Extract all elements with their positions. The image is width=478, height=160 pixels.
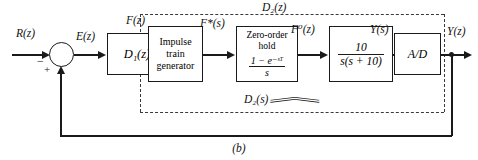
arrowhead-error xyxy=(98,51,106,59)
label-controller-output: F(z) xyxy=(126,14,145,26)
inner-group-brace: ︽ xyxy=(268,86,322,105)
block-impulse-train-generator: Impulse train generator xyxy=(148,26,203,82)
zoh-line-1: Zero-order xyxy=(246,30,287,41)
zoh-transfer-function: 1 − e⁻ˢᵀ s xyxy=(249,55,285,78)
plant-transfer-function: 10 s(s + 10) xyxy=(338,41,384,68)
inner-group-label: D₂(s) xyxy=(244,93,268,105)
wire-feedback-bottom xyxy=(60,135,452,137)
figure-caption: (b) xyxy=(0,142,478,154)
block-ad-converter: A/D xyxy=(394,33,441,75)
impulse-line-1: Impulse xyxy=(159,36,191,48)
arrowhead-impulse-out xyxy=(227,51,235,59)
dashed-box-bottom xyxy=(140,112,444,113)
dashed-box-top xyxy=(140,14,444,15)
block-controller-label: D₁(z) xyxy=(124,47,151,62)
sum-plus-sign: + xyxy=(44,64,50,76)
sum-minus-sign: − xyxy=(37,55,44,68)
arrowhead-feedback-into-sum xyxy=(57,66,65,74)
label-hold-output: F⁰(z) xyxy=(291,23,315,35)
arrowhead-output xyxy=(464,51,472,59)
outer-group-label: D₂(z) xyxy=(262,1,286,13)
label-error-signal: E(z) xyxy=(76,30,95,42)
arrowhead-hold-out xyxy=(320,51,328,59)
label-plant-output: Y(s) xyxy=(370,23,389,35)
figure-block-diagram: D₂(z) R(z) + − E(z) D₁(z) F(z) Impulse t… xyxy=(0,0,478,160)
zoh-numerator: 1 − e⁻ˢᵀ xyxy=(249,55,285,66)
block-ad-label: A/D xyxy=(408,47,427,62)
impulse-line-3: generator xyxy=(157,60,195,72)
plant-numerator: 10 xyxy=(338,41,384,54)
impulse-line-2: train xyxy=(166,48,184,60)
plant-denominator: s(s + 10) xyxy=(338,54,384,68)
dashed-box-right xyxy=(444,14,445,112)
label-input-signal: R(z) xyxy=(16,27,35,39)
block-zero-order-hold: Zero-order hold 1 − e⁻ˢᵀ s xyxy=(236,26,298,82)
label-impulse-output: F*(s) xyxy=(200,17,225,29)
summing-junction xyxy=(49,42,74,67)
wire-feedback-into-sum xyxy=(60,72,62,136)
wire-feedback-down xyxy=(451,54,453,136)
zoh-line-2: hold xyxy=(259,41,276,52)
label-output-signal: Y(z) xyxy=(447,25,466,37)
zoh-denominator: s xyxy=(249,66,285,78)
